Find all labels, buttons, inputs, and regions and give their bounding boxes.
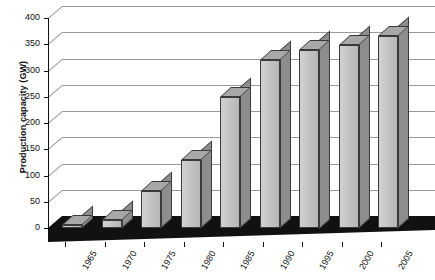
y-tick-label: 200	[14, 118, 40, 127]
y-tick-label: 0	[14, 223, 40, 232]
y-tick-label: 100	[14, 171, 40, 180]
bar	[220, 87, 240, 228]
y-tick-mark	[44, 97, 49, 98]
gridline-riser	[48, 164, 63, 177]
bar	[62, 215, 82, 228]
x-tick-mark	[302, 242, 303, 247]
x-tick-mark	[263, 242, 264, 247]
y-tick-label: 250	[14, 92, 40, 101]
bar	[102, 210, 122, 228]
bar-front-face	[181, 160, 201, 228]
x-tick-mark	[342, 242, 343, 247]
bar-side-face	[319, 30, 330, 228]
y-tick-mark	[44, 71, 49, 72]
y-tick-label: 300	[14, 66, 40, 75]
x-tick-label: 2000	[357, 249, 376, 271]
y-tick-mark	[44, 123, 49, 124]
bar	[181, 150, 201, 228]
x-tick-mark	[223, 242, 224, 247]
bar-front-face	[299, 50, 319, 229]
bar-side-face	[240, 77, 251, 228]
bar-front-face	[62, 225, 82, 228]
x-tick-label: 1970	[120, 249, 139, 271]
y-tick-mark	[44, 228, 49, 229]
x-tick-mark	[381, 242, 382, 247]
bar-side-face	[398, 17, 409, 228]
y-tick-mark	[44, 149, 49, 150]
bar-side-face	[280, 40, 291, 228]
x-tick-mark	[105, 242, 106, 247]
bar	[339, 35, 359, 228]
y-tick-mark	[44, 176, 49, 177]
x-tick-label: 1995	[317, 249, 336, 271]
x-tick-label: 1990	[278, 249, 297, 271]
bar-front-face	[339, 45, 359, 228]
y-tick-mark	[44, 44, 49, 45]
gridline-riser	[48, 137, 63, 150]
x-tick-mark	[144, 242, 145, 247]
x-tick-mark	[65, 242, 66, 247]
x-tick-label: 2005	[396, 249, 415, 271]
y-tick-label: 400	[14, 13, 40, 22]
gridline-riser	[48, 190, 63, 203]
gridline-riser	[48, 85, 63, 98]
x-tick-label: 1965	[80, 249, 99, 271]
y-tick-mark	[44, 202, 49, 203]
x-tick-label: 1980	[199, 249, 218, 271]
bar-front-face	[260, 60, 280, 228]
bar-side-face	[359, 26, 370, 228]
gridline-riser	[48, 59, 63, 72]
y-tick-label: 50	[14, 197, 40, 206]
y-tick-label: 350	[14, 39, 40, 48]
x-tick-label: 1985	[238, 249, 257, 271]
bar	[260, 50, 280, 228]
gridline	[62, 6, 435, 7]
x-tick-mark	[184, 242, 185, 247]
bar-front-face	[102, 220, 122, 228]
gridline-riser	[48, 111, 63, 124]
y-tick-mark	[44, 18, 49, 19]
bar	[378, 26, 398, 228]
x-tick-label: 1975	[159, 249, 178, 271]
y-tick-label: 150	[14, 144, 40, 153]
bar-front-face	[378, 36, 398, 228]
gridline-riser	[48, 6, 63, 19]
gridline-riser	[48, 32, 63, 45]
bar	[299, 40, 319, 229]
bar-front-face	[220, 97, 240, 228]
bar-front-face	[141, 191, 161, 228]
bar	[141, 181, 161, 228]
bar-chart: Production capacity (GW) 050100150200250…	[0, 0, 435, 280]
